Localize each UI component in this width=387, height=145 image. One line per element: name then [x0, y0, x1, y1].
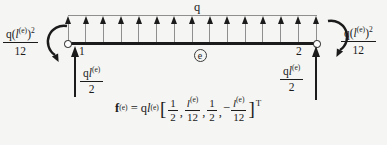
load-arrow [118, 16, 125, 43]
beam-line [68, 42, 317, 45]
load-arrow [153, 16, 160, 43]
moment-left-value: q(l(e))2 12 [3, 26, 38, 59]
load-arrow [189, 16, 196, 43]
moment-left-numerator: q(l(e))2 [3, 26, 38, 43]
load-arrow [82, 16, 89, 43]
reaction-right-denominator: 2 [280, 80, 303, 95]
moment-arrow-left-icon [45, 20, 71, 64]
beam-element-load-diagram: q 1 2 e q(l(e))2 12 q(l(e))2 12 ql(e) 2 … [0, 0, 387, 145]
load-arrow [277, 16, 284, 43]
distributed-load-label: q [186, 0, 208, 14]
reaction-arrow-left [74, 54, 76, 97]
node-1-label: 1 [79, 45, 85, 57]
reaction-left-denominator: 2 [80, 82, 103, 97]
load-arrow [313, 16, 320, 43]
load-arrow [259, 16, 266, 43]
moment-right-value: q(l(e))2 12 [341, 25, 376, 58]
load-arrow [100, 16, 107, 43]
load-arrow [171, 16, 178, 43]
reaction-arrow-right [315, 54, 317, 100]
load-arrow [224, 16, 231, 43]
reaction-left-value: ql(e) 2 [80, 66, 103, 97]
formula-open-bracket: [ [160, 98, 166, 120]
reaction-right-value: ql(e) 2 [280, 64, 303, 95]
nodal-force-vector-formula: f(e) = ql(e) [ 12 , l(e)12 , 12 , − l(e)… [115, 97, 261, 123]
load-arrow [206, 16, 213, 43]
formula-term-4: l(e)12 [231, 97, 246, 123]
formula-term-3: 12 [207, 97, 217, 123]
element-label-circled-e: e [194, 49, 207, 62]
formula-term-2: l(e)12 [185, 97, 200, 123]
formula-equals: = [128, 101, 141, 116]
formula-minus: − [223, 101, 230, 116]
moment-right-denominator: 12 [341, 42, 376, 58]
reaction-left-numerator: ql(e) [80, 66, 103, 82]
load-arrow [295, 16, 302, 43]
load-arrow [242, 16, 249, 43]
moment-left-denominator: 12 [3, 43, 38, 59]
moment-right-numerator: q(l(e))2 [341, 25, 376, 42]
reaction-right-numerator: ql(e) [280, 64, 303, 80]
load-arrow [135, 16, 142, 43]
formula-term-1: 12 [168, 97, 178, 123]
formula-transpose: T [256, 98, 262, 108]
formula-close-bracket: ] [248, 98, 254, 120]
node-2-label: 2 [296, 45, 302, 57]
